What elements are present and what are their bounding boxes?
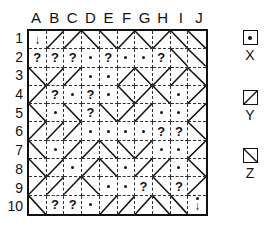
grid-cell-A2[interactable]: ? xyxy=(29,49,47,67)
grid-cell-C8[interactable] xyxy=(64,159,82,177)
grid-cell-I7[interactable] xyxy=(171,141,189,159)
grid-cell-G7[interactable] xyxy=(135,141,153,159)
grid-cell-C2[interactable]: ? xyxy=(64,49,82,67)
grid-cell-G2[interactable] xyxy=(135,49,153,67)
grid-cell-I10[interactable] xyxy=(171,196,189,214)
grid-cell-D4[interactable]: ? xyxy=(82,86,100,104)
grid-cell-H1[interactable] xyxy=(153,31,171,49)
grid-cell-H10[interactable] xyxy=(153,196,171,214)
grid-cell-C7[interactable] xyxy=(64,141,82,159)
grid-cell-F3[interactable] xyxy=(118,68,136,86)
grid-cell-B7[interactable] xyxy=(47,141,65,159)
grid-cell-E8[interactable] xyxy=(100,159,118,177)
grid-cell-B1[interactable] xyxy=(47,31,65,49)
grid-cell-C6[interactable] xyxy=(64,122,82,140)
grid-cell-A7[interactable] xyxy=(29,141,47,159)
grid-cell-F9[interactable] xyxy=(118,177,136,195)
grid-cell-A6[interactable] xyxy=(29,122,47,140)
grid-cell-E2[interactable]: ? xyxy=(100,49,118,67)
grid-cell-H8[interactable] xyxy=(153,159,171,177)
grid-cell-J6[interactable] xyxy=(188,122,206,140)
grid-cell-H4[interactable] xyxy=(153,86,171,104)
grid-cell-I8[interactable] xyxy=(171,159,189,177)
grid-cell-F1[interactable] xyxy=(118,31,136,49)
grid-cell-G1[interactable] xyxy=(135,31,153,49)
grid-cell-F5[interactable] xyxy=(118,104,136,122)
grid-cell-B6[interactable] xyxy=(47,122,65,140)
grid-cell-E3[interactable] xyxy=(100,68,118,86)
grid-cell-C5[interactable] xyxy=(64,104,82,122)
grid-cell-E7[interactable] xyxy=(100,141,118,159)
grid-cell-G10[interactable] xyxy=(135,196,153,214)
grid-cell-C4[interactable] xyxy=(64,86,82,104)
grid-cell-B9[interactable] xyxy=(47,177,65,195)
grid-cell-G5[interactable] xyxy=(135,104,153,122)
grid-cell-E4[interactable] xyxy=(100,86,118,104)
grid-cell-B5[interactable] xyxy=(47,104,65,122)
grid-cell-I9[interactable]: ? xyxy=(171,177,189,195)
grid-cell-J8[interactable] xyxy=(188,159,206,177)
grid-cell-J2[interactable] xyxy=(188,49,206,67)
grid-cell-F2[interactable] xyxy=(118,49,136,67)
grid-cell-G8[interactable] xyxy=(135,159,153,177)
grid-cell-C3[interactable] xyxy=(64,68,82,86)
grid-cell-D7[interactable] xyxy=(82,141,100,159)
grid-cell-A8[interactable] xyxy=(29,159,47,177)
grid-cell-J4[interactable] xyxy=(188,86,206,104)
grid-cell-A5[interactable] xyxy=(29,104,47,122)
grid-cell-E1[interactable] xyxy=(100,31,118,49)
grid-cell-I1[interactable] xyxy=(171,31,189,49)
grid-cell-F4[interactable] xyxy=(118,86,136,104)
grid-cell-G4[interactable] xyxy=(135,86,153,104)
grid-cell-A4[interactable] xyxy=(29,86,47,104)
grid-cell-B4[interactable]: ? xyxy=(47,86,65,104)
grid-cell-E9[interactable] xyxy=(100,177,118,195)
grid-cell-C1[interactable] xyxy=(64,31,82,49)
grid-cell-I6[interactable]: ? xyxy=(171,122,189,140)
grid-cell-D6[interactable] xyxy=(82,122,100,140)
grid-cell-J3[interactable] xyxy=(188,68,206,86)
grid-cell-J1[interactable] xyxy=(188,31,206,49)
grid-cell-B2[interactable]: ? xyxy=(47,49,65,67)
grid-cell-D10[interactable] xyxy=(82,196,100,214)
grid-cell-E10[interactable] xyxy=(100,196,118,214)
grid-cell-H7[interactable] xyxy=(153,141,171,159)
grid-cell-I5[interactable] xyxy=(171,104,189,122)
grid-cell-G3[interactable] xyxy=(135,68,153,86)
grid-cell-B10[interactable]: ? xyxy=(47,196,65,214)
grid-cell-D1[interactable] xyxy=(82,31,100,49)
grid-cell-A1[interactable]: ↓ xyxy=(29,31,47,49)
grid-cell-F10[interactable] xyxy=(118,196,136,214)
grid-cell-F6[interactable] xyxy=(118,122,136,140)
grid-cell-C10[interactable]: ? xyxy=(64,196,82,214)
grid-cell-H9[interactable] xyxy=(153,177,171,195)
grid-cell-I4[interactable] xyxy=(171,86,189,104)
grid-cell-D3[interactable] xyxy=(82,68,100,86)
grid-cell-B8[interactable] xyxy=(47,159,65,177)
grid-cell-D2[interactable] xyxy=(82,49,100,67)
grid-cell-H2[interactable]: ? xyxy=(153,49,171,67)
grid-cell-D5[interactable]: ? xyxy=(82,104,100,122)
grid-cell-H3[interactable] xyxy=(153,68,171,86)
grid-cell-A9[interactable] xyxy=(29,177,47,195)
grid-cell-D8[interactable] xyxy=(82,159,100,177)
grid-cell-J5[interactable] xyxy=(188,104,206,122)
grid-cell-I3[interactable] xyxy=(171,68,189,86)
grid-cell-J10[interactable]: ↓ xyxy=(188,196,206,214)
grid-cell-E5[interactable] xyxy=(100,104,118,122)
grid-cell-F8[interactable] xyxy=(118,159,136,177)
grid-cell-I2[interactable] xyxy=(171,49,189,67)
grid-cell-H6[interactable]: ? xyxy=(153,122,171,140)
grid-cell-E6[interactable] xyxy=(100,122,118,140)
grid-cell-G6[interactable] xyxy=(135,122,153,140)
grid-cell-F7[interactable] xyxy=(118,141,136,159)
grid-cell-H5[interactable] xyxy=(153,104,171,122)
grid-cell-A3[interactable] xyxy=(29,68,47,86)
grid-cell-G9[interactable]: ? xyxy=(135,177,153,195)
grid-cell-J7[interactable] xyxy=(188,141,206,159)
grid-cell-A10[interactable] xyxy=(29,196,47,214)
grid-cell-B3[interactable] xyxy=(47,68,65,86)
grid-cell-D9[interactable] xyxy=(82,177,100,195)
grid-cell-C9[interactable] xyxy=(64,177,82,195)
grid-cell-J9[interactable] xyxy=(188,177,206,195)
